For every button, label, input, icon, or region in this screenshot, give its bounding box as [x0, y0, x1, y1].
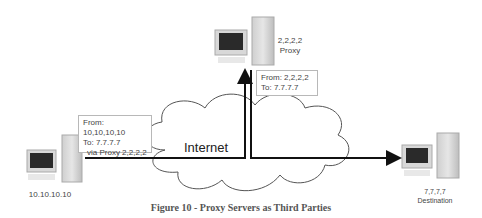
source-packet-via: via Proxy 2,2,2,2	[83, 148, 147, 158]
source-computer-icon	[27, 135, 82, 182]
diagram-canvas	[0, 0, 482, 218]
destination-computer-icon	[402, 133, 459, 178]
source-packet-box: From: 10,10,10,10 To: 7.7.7.7 via Proxy …	[78, 115, 152, 153]
proxy-role-label: Proxy	[270, 46, 310, 56]
proxy-packet-box: From: 2,2,2,2 To: 7.7.7.7	[256, 70, 318, 96]
source-packet-from: From: 10,10,10,10	[83, 118, 147, 138]
figure-caption: Figure 10 - Proxy Servers as Third Parti…	[0, 202, 482, 213]
proxy-packet-from: From: 2,2,2,2	[261, 73, 313, 83]
source-packet-to: To: 7.7.7.7	[83, 138, 147, 148]
internet-label: Internet	[184, 140, 228, 155]
proxy-computer-icon	[215, 17, 274, 65]
proxy-ip-label: 2,2,2,2	[270, 36, 310, 46]
source-ip-label: 10.10.10.10	[10, 190, 90, 200]
proxy-packet-to: To: 7.7.7.7	[261, 83, 313, 93]
internet-cloud	[146, 94, 349, 191]
